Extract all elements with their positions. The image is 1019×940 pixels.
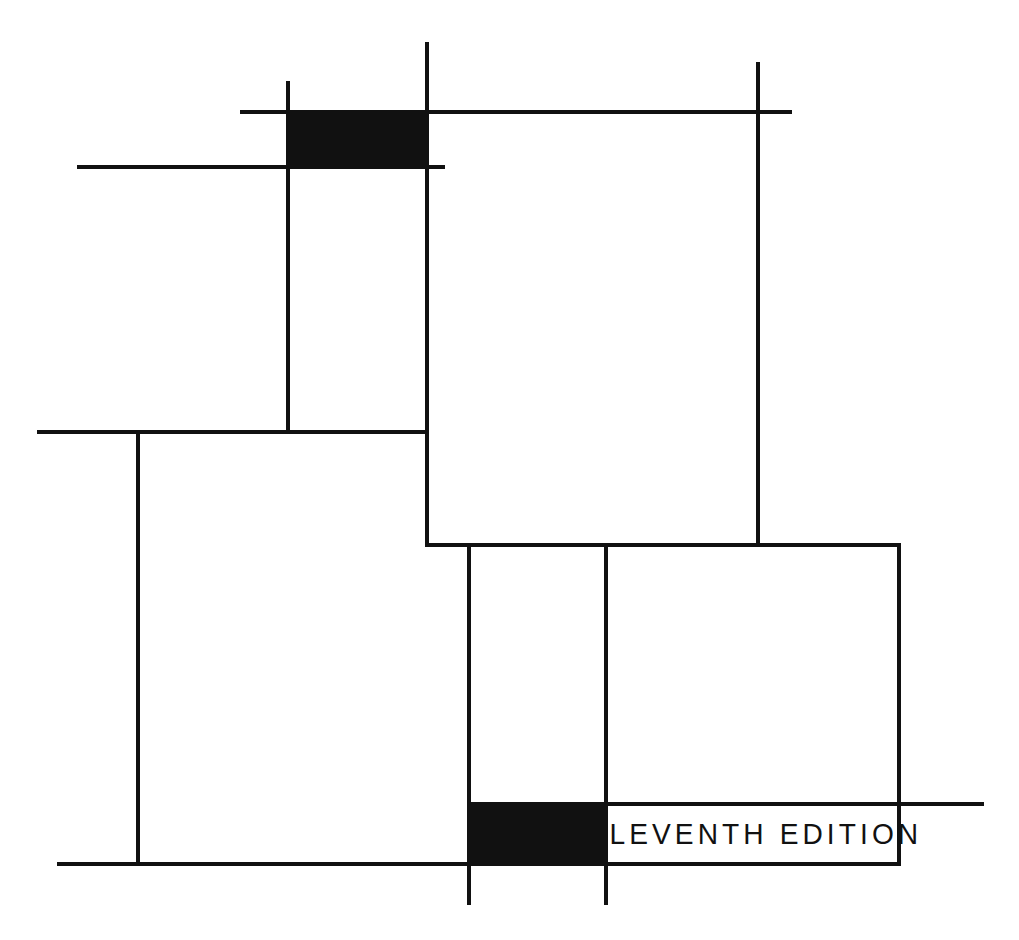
mid-right-rule (427, 543, 901, 547)
right-panel-vrule (897, 543, 901, 864)
upper-black-block (288, 111, 427, 167)
edition-label: ELEVENTH EDITION (610, 805, 894, 863)
mid-left-rule (37, 430, 429, 434)
left-long-vrule (136, 430, 140, 864)
cover-artwork-canvas: ELEVENTH EDITION (0, 0, 1019, 940)
upper-right-vrule (756, 62, 760, 545)
